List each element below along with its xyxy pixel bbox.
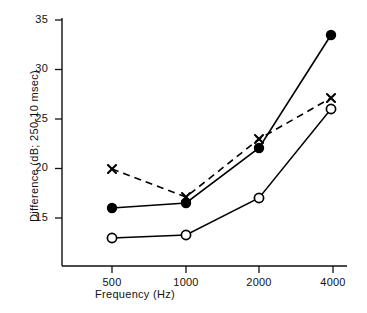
y-axis-ticks [55, 20, 62, 218]
plot-area [0, 0, 367, 313]
figure-chart: 35 30 25 20 15 500 1000 2000 4000 Freque… [0, 0, 367, 313]
series-filled-circle [107, 30, 336, 213]
data-point-filled [326, 30, 336, 40]
y-axis-title: Difference (dB; 250-10 msec) [28, 56, 40, 236]
x-axis-ticks [112, 266, 333, 273]
x-tick-label-2000: 2000 [239, 276, 279, 288]
data-point-cross [327, 94, 335, 102]
series-filled-circle-line [112, 35, 331, 208]
series-cross-line [112, 98, 331, 197]
data-point-filled [107, 203, 117, 213]
data-point-open [107, 233, 116, 242]
x-tick-label-4000: 4000 [313, 276, 353, 288]
x-axis-title: Frequency (Hz) [95, 288, 175, 300]
y-tick-label-35: 35 [22, 13, 48, 25]
series-open-circle [107, 104, 335, 242]
data-point-open [254, 193, 263, 202]
series-open-circle-line [112, 109, 331, 238]
data-point-open [326, 104, 335, 113]
series-cross [108, 94, 335, 201]
x-tick-label-500: 500 [92, 276, 132, 288]
data-point-filled [254, 143, 264, 153]
data-point-open [181, 230, 190, 239]
x-tick-label-1000: 1000 [166, 276, 206, 288]
data-point-cross [255, 135, 263, 143]
data-point-cross [108, 165, 116, 173]
